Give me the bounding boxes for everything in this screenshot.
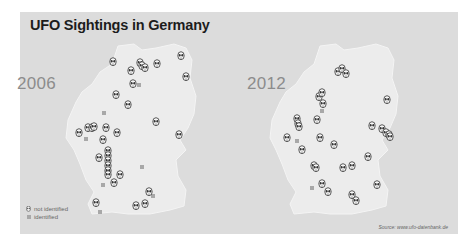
legend-label-not-identified: not identified [34,205,68,213]
alien-head-icon [105,171,111,179]
alien-head-icon [117,171,123,179]
alien-head-icon [349,162,355,170]
alien-head-icon [114,129,120,137]
legend-label-identified: identified [34,213,58,221]
identified-marker [102,111,106,115]
alien-head-icon [113,91,119,99]
alien-head-icon [340,164,346,172]
legend: not identified identified [26,205,68,221]
identified-marker [310,186,314,190]
alien-head-icon [111,179,117,187]
identified-marker [140,165,144,169]
alien-head-icon [142,64,148,72]
identified-marker [101,183,105,187]
alien-head-icon [91,123,97,131]
chart-panel: UFO Sightings in Germany 2006 2012 not i… [20,12,458,234]
identified-marker [98,210,102,214]
alien-head-icon [320,100,326,108]
alien-head-icon [284,134,290,142]
alien-head-icon [93,199,99,207]
alien-head-icon [317,134,323,142]
alien-head-icon [387,133,393,141]
legend-item-identified: identified [26,213,68,221]
identified-marker [137,83,141,87]
alien-head-icon [314,116,320,124]
alien-head-icon [374,181,380,189]
alien-head-icon [176,131,182,139]
alien-head-icon [369,122,375,130]
alien-head-icon [343,70,349,78]
alien-head-icon [319,180,325,188]
alien-head-icon [130,80,136,88]
alien-head-icon [325,188,331,196]
alien-head-icon [183,73,189,81]
identified-marker [295,139,299,143]
alien-head-icon [26,206,31,212]
alien-head-icon [154,60,160,68]
alien-head-icon [365,153,371,161]
alien-head-icon [299,146,305,154]
alien-head-icon [331,141,337,149]
alien-head-icon [313,164,319,172]
alien-head-icon [319,89,325,97]
alien-head-icon [133,202,139,210]
alien-head-icon [178,52,184,60]
alien-head-icon [103,124,109,132]
alien-head-icon [384,96,390,104]
identified-marker [320,109,324,113]
alien-head-icon [125,101,131,109]
alien-head-icon [296,123,302,131]
source-note: Source: www.ufo-datenbank.de [379,224,449,230]
square-icon [27,215,31,219]
alien-head-icon [100,136,106,144]
alien-head-icon [146,188,152,196]
alien-head-icon [76,129,82,137]
alien-head-icon [96,154,102,162]
alien-head-icon [128,67,134,75]
alien-head-icon [142,200,148,208]
alien-head-icon [110,58,116,66]
identified-marker [84,137,88,141]
alien-head-icon [353,197,359,205]
legend-item-not-identified: not identified [26,205,68,213]
alien-head-icon [153,118,159,126]
markers-layer [20,12,458,234]
